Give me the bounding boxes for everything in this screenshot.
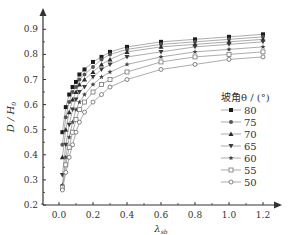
x-tick-label: 1.0 (222, 210, 237, 220)
x-axis-label: λsb (153, 223, 167, 235)
x-tick-label: 0.8 (188, 210, 203, 220)
open-square-marker-icon (159, 60, 163, 64)
open-circle-marker-icon (64, 170, 68, 174)
open-circle-marker-icon (83, 110, 87, 114)
circle-marker-icon (229, 120, 233, 124)
x-tick-label: 0.6 (154, 210, 169, 220)
triangle-down-marker-icon (125, 55, 130, 60)
open-circle-marker-icon (159, 67, 163, 71)
open-circle-marker-icon (100, 93, 104, 97)
star-marker-icon (227, 47, 232, 52)
legend-item-70: 70 (221, 129, 257, 140)
y-tick-label: 0.6 (24, 100, 39, 110)
circle-marker-icon (108, 52, 112, 56)
x-axis-label-sub: sb (161, 228, 168, 235)
legend-label: 75 (244, 117, 257, 128)
square-marker-icon (64, 105, 68, 109)
square-marker-icon (67, 93, 71, 97)
y-tick-label: 0.5 (24, 125, 39, 135)
open-circle-marker-icon (60, 188, 64, 192)
open-square-marker-icon (83, 100, 87, 104)
triangle-up-marker-icon (99, 62, 104, 67)
open-circle-marker-icon (91, 100, 95, 104)
series-60 (60, 44, 266, 187)
y-axis-label: D / H0 (5, 102, 17, 133)
open-circle-marker-icon (261, 55, 265, 59)
legend-label: 80 (244, 105, 257, 116)
legend: 坡角θ / (°)80757065605550 (221, 91, 270, 188)
y-tick-label: 0.4 (24, 150, 39, 160)
y-tick-label: 0.2 (24, 200, 38, 210)
legend-label: 55 (244, 165, 257, 176)
open-circle-marker-icon (227, 57, 231, 61)
open-circle-marker-icon (108, 85, 112, 89)
legend-title: 坡角θ / (°) (221, 91, 270, 103)
legend-item-50: 50 (221, 177, 257, 188)
x-axis-arrow-icon (274, 202, 282, 209)
open-square-marker-icon (193, 55, 197, 59)
open-square-marker-icon (77, 108, 81, 112)
legend-label: 50 (244, 177, 257, 188)
square-marker-icon (91, 60, 95, 64)
legend-item-55: 55 (221, 165, 257, 176)
x-tick-label: 0.4 (120, 210, 135, 220)
axes: 0.20.30.40.50.60.70.80.90.00.20.40.60.81… (5, 8, 282, 235)
y-tick-label: 0.7 (24, 75, 39, 85)
open-square-marker-icon (261, 50, 265, 54)
square-marker-icon (77, 72, 81, 76)
x-tick-label: 1.2 (256, 210, 270, 220)
open-square-marker-icon (229, 168, 233, 172)
star-marker-icon (193, 49, 198, 54)
triangle-down-marker-icon (67, 123, 72, 128)
legend-label: 70 (244, 129, 257, 140)
circle-marker-icon (77, 78, 81, 82)
star-marker-icon (77, 99, 82, 104)
x-tick-label: 0.0 (52, 210, 67, 220)
square-marker-icon (83, 67, 87, 71)
open-square-marker-icon (125, 70, 129, 74)
open-circle-marker-icon (229, 180, 233, 184)
star-marker-icon (261, 44, 266, 49)
y-tick-label: 0.8 (24, 49, 39, 59)
triangle-down-marker-icon (70, 108, 75, 113)
open-square-marker-icon (100, 83, 104, 87)
circle-marker-icon (91, 65, 95, 69)
open-square-marker-icon (91, 90, 95, 94)
star-marker-icon (159, 54, 164, 59)
legend-item-60: 60 (221, 153, 257, 164)
star-marker-icon (125, 62, 130, 67)
circle-marker-icon (83, 72, 87, 76)
y-axis-label-sub: 0 (10, 102, 17, 106)
circle-marker-icon (100, 57, 104, 61)
circle-marker-icon (64, 115, 68, 119)
legend-item-65: 65 (221, 141, 257, 152)
open-circle-marker-icon (125, 78, 129, 82)
open-circle-marker-icon (77, 120, 81, 124)
y-tick-label: 0.3 (24, 175, 39, 185)
open-circle-marker-icon (74, 130, 78, 134)
legend-label: 65 (244, 141, 257, 152)
open-circle-marker-icon (193, 62, 197, 66)
square-marker-icon (229, 108, 233, 112)
triangle-up-marker-icon (108, 57, 113, 62)
star-marker-icon (229, 155, 234, 160)
triangle-down-marker-icon (108, 62, 113, 67)
line-chart: 0.20.30.40.50.60.70.80.90.00.20.40.60.81… (0, 0, 295, 235)
open-square-marker-icon (108, 78, 112, 82)
open-circle-marker-icon (67, 155, 71, 159)
y-tick-label: 0.9 (24, 24, 39, 34)
open-circle-marker-icon (71, 143, 75, 147)
legend-item-80: 80 (221, 105, 257, 116)
legend-item-75: 75 (221, 117, 257, 128)
y-axis-arrow-icon (40, 8, 47, 16)
open-square-marker-icon (227, 52, 231, 56)
legend-label: 60 (244, 153, 257, 164)
series-group (60, 32, 266, 192)
x-tick-label: 0.2 (86, 210, 100, 220)
